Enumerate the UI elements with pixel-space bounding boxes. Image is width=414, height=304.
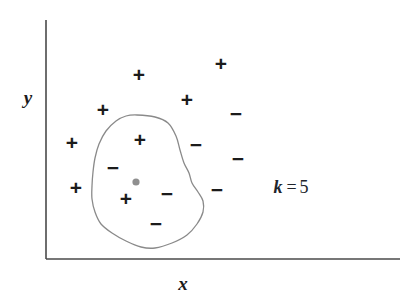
minus-marker: −: [107, 157, 119, 178]
k-symbol: k: [273, 177, 282, 197]
neighbourhood-boundary: [92, 115, 204, 248]
plot-canvas: [0, 0, 414, 304]
minus-marker: −: [150, 213, 162, 234]
equals-sign: =: [286, 177, 296, 197]
minus-marker: −: [190, 134, 202, 155]
x-axis-label: x: [178, 274, 188, 293]
plus-marker: +: [97, 99, 109, 120]
plus-marker: +: [181, 89, 193, 110]
k-value: 5: [300, 177, 309, 197]
minus-marker: −: [232, 148, 244, 169]
minus-marker: −: [211, 179, 223, 200]
plus-marker: +: [120, 188, 132, 209]
plus-marker: +: [70, 177, 82, 198]
knn-figure: y x ++++++++−−−−−−− k=5: [0, 0, 414, 304]
k-value-annotation: k=5: [273, 178, 308, 196]
plus-marker: +: [133, 64, 145, 85]
query-point: [132, 178, 139, 185]
plus-marker: +: [215, 53, 227, 74]
plus-marker: +: [134, 129, 146, 150]
minus-marker: −: [161, 183, 173, 204]
y-axis-label: y: [24, 88, 32, 107]
plus-marker: +: [66, 132, 78, 153]
minus-marker: −: [230, 103, 242, 124]
